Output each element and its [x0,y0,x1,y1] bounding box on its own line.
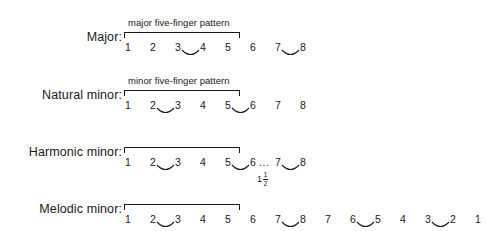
scale-degree: 4 [196,155,210,169]
pattern-caption-natural-minor: minor five-finger pattern [128,76,230,86]
scale-row-natural-minor: minor five-finger patternNatural minor:1… [0,76,445,116]
five-finger-bracket-natural-minor [124,90,240,96]
half-step-slur [282,165,299,174]
scale-degree: 4 [396,212,410,226]
five-finger-bracket-major [124,32,240,38]
scale-degree: 5 [221,212,235,226]
augmented-second-dots: ... [259,155,270,169]
degree-strip-major: 12345678 [0,40,445,56]
half-step-slur [182,50,199,59]
scale-degree: 6 [246,40,260,54]
interval-size-label: 112 [257,171,268,187]
scale-degree: 8 [296,98,310,112]
interval-fraction: 12 [263,171,269,187]
scale-degree: 6 [246,212,260,226]
half-step-slur [232,108,249,117]
five-finger-bracket-melodic-minor [124,204,240,210]
half-step-slur [157,222,174,231]
half-step-slur [157,108,174,117]
scale-row-melodic-minor: Melodic minor:123456787654321 [0,190,445,230]
scale-degree: 4 [196,98,210,112]
degree-strip-natural-minor: 12345678 [0,98,445,114]
five-finger-bracket-harmonic-minor [124,147,240,153]
fraction-denominator: 2 [263,179,269,188]
scale-degree: 1 [121,155,135,169]
interval-whole-number: 1 [257,174,262,184]
pattern-caption-major: major five-finger pattern [128,18,230,28]
scale-degree: 7 [271,98,285,112]
scale-row-major: major five-finger patternMajor:12345678 [0,18,445,58]
scale-row-harmonic-minor: Harmonic minor:12345678...112 [0,133,445,173]
half-step-slur [432,222,449,231]
scale-degree: 1 [121,212,135,226]
scale-degree: 1 [121,98,135,112]
scale-degree: 5 [221,40,235,54]
scale-degree: 2 [146,40,160,54]
fraction-numerator: 1 [263,171,269,179]
scale-degree: 1 [121,40,135,54]
scale-degree: 4 [196,212,210,226]
half-step-slur [282,50,299,59]
half-step-slur [357,222,374,231]
degree-strip-harmonic-minor: 12345678 [0,155,445,171]
half-step-slur [282,222,299,231]
scale-degree: 7 [321,212,335,226]
half-step-slur [232,165,249,174]
degree-strip-melodic-minor: 123456787654321 [0,212,445,228]
half-step-slur [157,165,174,174]
scale-degree: 1 [471,212,485,226]
